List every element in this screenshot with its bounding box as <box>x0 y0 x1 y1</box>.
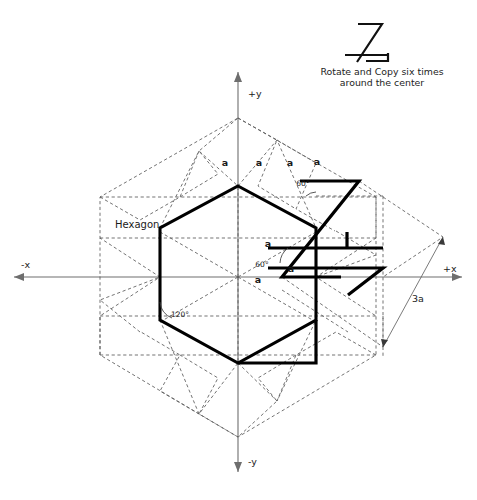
dimension-3a-line <box>383 237 443 347</box>
dimension-3a-group <box>381 237 445 347</box>
y-axis-positive-arrowhead <box>234 72 242 82</box>
dashed-zigzag-lower-right <box>238 320 316 401</box>
dashed-spoke-nw <box>160 232 238 277</box>
dashed-slope-upper-right <box>359 181 443 277</box>
x-axis-negative-arrowhead <box>14 273 24 281</box>
dimension-label-3a: 3a <box>412 293 424 304</box>
rotated-copy-6 <box>100 151 199 220</box>
rotated-copy-6b <box>180 118 238 197</box>
z-motif-icon <box>345 24 388 62</box>
arc-60-top <box>306 192 316 196</box>
angle-label-120: 120° <box>171 310 189 319</box>
rotated-copy-4 <box>180 355 238 437</box>
x-axis-positive-arrowhead <box>452 273 462 281</box>
rotated-copy-5b <box>100 277 160 332</box>
segment-label-a-4: a <box>314 156 320 167</box>
axis-group <box>14 72 462 472</box>
axis-label-y-positive: +y <box>248 88 262 99</box>
dashed-spoke-se <box>238 277 316 322</box>
segment-label-a-7: a <box>255 274 261 285</box>
segment-label-a-5: a <box>265 238 271 249</box>
rotated-copy-2 <box>316 197 376 316</box>
hexagon-label: Hexagon <box>115 219 159 230</box>
angle-label-60-center: 60° <box>255 260 269 269</box>
axis-label-x-positive: +x <box>443 263 457 274</box>
rotated-copy-3 <box>277 332 376 401</box>
angle-label-60-top: 60° <box>296 179 310 188</box>
dimension-3a-arrowhead-bottom <box>381 339 388 347</box>
bold-z-motif-group <box>238 181 383 363</box>
segment-label-a-2: a <box>256 157 262 168</box>
diagram-canvas: a a a a 60° a 60° a a 120° Hexagon 3a +y… <box>0 0 477 500</box>
dashed-zigzag-lower-left <box>160 320 238 414</box>
segment-label-a-6: a <box>288 263 294 274</box>
dimension-3a-arrowhead-top <box>438 237 445 245</box>
segment-label-a-1: a <box>222 157 228 168</box>
axis-label-x-negative: -x <box>21 259 30 270</box>
rotated-copy-3b <box>238 355 296 437</box>
dashed-spoke-ne <box>238 232 316 277</box>
instruction-caption: Rotate and Copy six times around the cen… <box>292 66 472 89</box>
y-axis-negative-arrowhead <box>234 462 242 472</box>
axis-label-y-negative: -y <box>248 456 257 467</box>
dashed-slope-lower-right <box>282 277 383 347</box>
z-motif-icon-upper-stroke <box>357 24 382 62</box>
segment-label-a-3: a <box>287 157 293 168</box>
